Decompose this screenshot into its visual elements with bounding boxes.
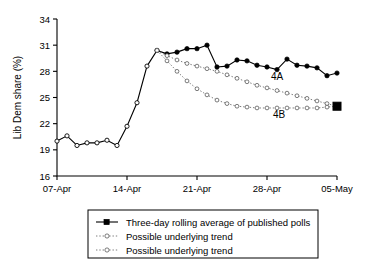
- data-point: [205, 43, 209, 47]
- x-tick-label-4: 05-May: [321, 183, 353, 194]
- data-point: [225, 73, 229, 77]
- y-tick-label-2: 22: [39, 118, 50, 129]
- data-point: [105, 138, 109, 142]
- x-tick-label-2: 21-Apr: [183, 183, 212, 194]
- data-point: [245, 80, 249, 84]
- data-point: [265, 106, 269, 110]
- y-tick-label-1: 19: [39, 144, 50, 155]
- data-point: [285, 106, 289, 110]
- data-point: [315, 99, 319, 103]
- y-tick-label-5: 31: [39, 40, 50, 51]
- data-point: [335, 71, 339, 75]
- series-1: [155, 49, 339, 109]
- data-point: [305, 64, 309, 68]
- data-point: [165, 54, 169, 58]
- data-point: [155, 49, 159, 53]
- data-point: [295, 94, 299, 98]
- data-point: [325, 73, 329, 77]
- x-tick-label-3: 28-Apr: [253, 183, 282, 194]
- data-point: [195, 46, 199, 50]
- data-point: [265, 65, 269, 69]
- data-point: [85, 141, 89, 145]
- data-point: [205, 93, 209, 97]
- line-chart: 1619222528313407-Apr14-Apr21-Apr28-Apr05…: [0, 0, 369, 268]
- annotation-4b: 4B: [273, 109, 286, 120]
- data-point: [175, 69, 179, 73]
- y-tick-label-6: 34: [39, 14, 50, 25]
- data-point: [195, 64, 199, 68]
- annotation-4a: 4A: [271, 71, 284, 82]
- data-point: [185, 79, 189, 83]
- data-point: [255, 83, 259, 87]
- y-tick-label-0: 16: [39, 171, 50, 182]
- data-point: [55, 139, 59, 143]
- data-point: [195, 87, 199, 91]
- data-point: [165, 59, 169, 63]
- legend-marker: [104, 219, 109, 224]
- x-tick-label-1: 14-Apr: [113, 183, 142, 194]
- data-point: [315, 66, 319, 70]
- data-point: [205, 67, 209, 71]
- data-point: [285, 57, 289, 61]
- data-point: [295, 63, 299, 67]
- data-point: [325, 105, 329, 109]
- chart-figure: 1619222528313407-Apr14-Apr21-Apr28-Apr05…: [0, 0, 369, 268]
- data-point: [225, 102, 229, 106]
- data-point: [65, 134, 69, 138]
- data-point: [305, 96, 309, 100]
- data-point: [245, 105, 249, 109]
- x-tick-label-0: 07-Apr: [43, 183, 72, 194]
- data-point: [125, 124, 129, 128]
- data-point: [305, 106, 309, 110]
- legend-label-0: Three-day rolling average of published p…: [126, 217, 311, 228]
- data-point: [185, 62, 189, 66]
- series-2: [155, 49, 339, 110]
- data-point: [285, 91, 289, 95]
- legend-label-2: Possible underlying trend: [126, 245, 233, 256]
- endpoint-marker: [333, 102, 341, 110]
- y-tick-label-3: 25: [39, 92, 50, 103]
- data-point: [135, 101, 139, 105]
- data-point: [255, 106, 259, 110]
- data-point: [175, 50, 179, 54]
- axes: 1619222528313407-Apr14-Apr21-Apr28-Apr05…: [12, 14, 353, 195]
- y-axis-title: Lib Dem share (%): [12, 56, 23, 139]
- data-point: [235, 104, 239, 108]
- data-point: [215, 98, 219, 102]
- data-point: [275, 89, 279, 93]
- legend-label-1: Possible underlying trend: [126, 231, 233, 242]
- data-point: [235, 76, 239, 80]
- data-point: [265, 86, 269, 90]
- data-point: [185, 46, 189, 50]
- data-point: [235, 58, 239, 62]
- legend: Three-day rolling average of published p…: [88, 210, 318, 258]
- data-point: [215, 65, 219, 69]
- data-point: [215, 69, 219, 73]
- data-point: [225, 64, 229, 68]
- legend-marker: [105, 234, 109, 238]
- data-point: [295, 106, 299, 110]
- data-point: [245, 59, 249, 63]
- data-point: [315, 106, 319, 110]
- data-point: [175, 58, 179, 62]
- data-point: [115, 143, 119, 147]
- plot-area: 4A4B: [55, 43, 341, 148]
- data-point: [75, 143, 79, 147]
- legend-item-0: Three-day rolling average of published p…: [96, 217, 311, 228]
- data-point: [95, 141, 99, 145]
- legend-marker: [105, 248, 109, 252]
- axis-frame: [57, 19, 337, 176]
- data-point: [145, 64, 149, 68]
- y-tick-label-4: 28: [39, 66, 50, 77]
- data-point: [255, 63, 259, 67]
